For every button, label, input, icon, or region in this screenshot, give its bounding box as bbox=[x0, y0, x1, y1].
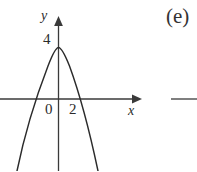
x-tick-label-0: 0 bbox=[45, 102, 53, 117]
y-axis-arrowhead bbox=[54, 16, 63, 26]
x-axis-label: x bbox=[128, 104, 134, 118]
parabola-curve bbox=[17, 48, 98, 172]
y-axis-label: y bbox=[41, 9, 47, 23]
y-axis bbox=[54, 16, 63, 171]
part-label-e: (e) bbox=[166, 6, 189, 27]
figure-container: ) (e) y x 4 0 2 bbox=[0, 0, 197, 171]
y-tick-label-4: 4 bbox=[43, 32, 51, 47]
x-tick-label-2: 2 bbox=[69, 102, 77, 117]
